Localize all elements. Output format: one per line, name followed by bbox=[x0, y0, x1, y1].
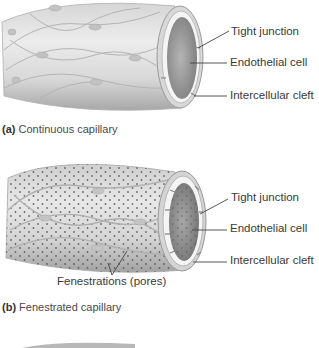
partial-capillary-figure bbox=[0, 340, 319, 348]
fenestrated-capillary-illustration bbox=[0, 150, 319, 290]
caption-fenestrated-capillary: (b) Fenestrated capillary bbox=[2, 301, 121, 313]
partial-capillary-illustration bbox=[0, 340, 319, 348]
caption-letter-b: (b) bbox=[2, 301, 16, 313]
label-tight-junction-b: Tight junction bbox=[231, 191, 299, 203]
label-intercellular-cleft-b: Intercellular cleft bbox=[230, 254, 314, 266]
caption-continuous-capillary: (a) Continuous capillary bbox=[2, 123, 118, 135]
caption-text-a: Continuous capillary bbox=[15, 123, 117, 135]
caption-letter-a: (a) bbox=[2, 123, 15, 135]
caption-text-b: Fenestrated capillary bbox=[16, 301, 121, 313]
label-fenestrations: Fenestrations (pores) bbox=[57, 275, 166, 287]
label-endothelial-cell-b: Endothelial cell bbox=[230, 222, 307, 234]
label-intercellular-cleft-a: Intercellular cleft bbox=[230, 89, 314, 101]
continuous-capillary-figure: Tight junction Endothelial cell Intercel… bbox=[0, 0, 319, 120]
fenestrated-capillary-figure: Tight junction Endothelial cell Intercel… bbox=[0, 150, 319, 290]
label-tight-junction-a: Tight junction bbox=[231, 25, 299, 37]
label-endothelial-cell-a: Endothelial cell bbox=[230, 56, 307, 68]
